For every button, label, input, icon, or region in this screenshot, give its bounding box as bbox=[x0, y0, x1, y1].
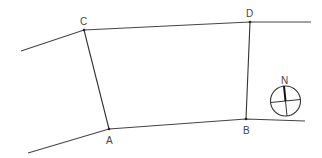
diagram-canvas: A B C D N bbox=[0, 0, 322, 158]
compass-north-arrow bbox=[284, 86, 286, 101]
compass-north-label: N bbox=[281, 75, 288, 86]
point-d-label: D bbox=[246, 8, 253, 19]
point-b-label: B bbox=[243, 125, 250, 136]
point-b-marker bbox=[245, 118, 248, 121]
point-d-marker bbox=[249, 21, 252, 24]
point-c-marker bbox=[83, 29, 86, 32]
lower-road-line bbox=[28, 119, 305, 153]
point-a-marker bbox=[108, 128, 111, 131]
upper-road-line bbox=[21, 22, 311, 51]
side-ca-line bbox=[84, 30, 109, 129]
compass-south-bar bbox=[286, 101, 288, 116]
north-compass-icon: N bbox=[271, 75, 301, 116]
point-c-label: C bbox=[80, 16, 87, 27]
side-db-line bbox=[246, 22, 250, 119]
point-a-label: A bbox=[106, 135, 113, 146]
